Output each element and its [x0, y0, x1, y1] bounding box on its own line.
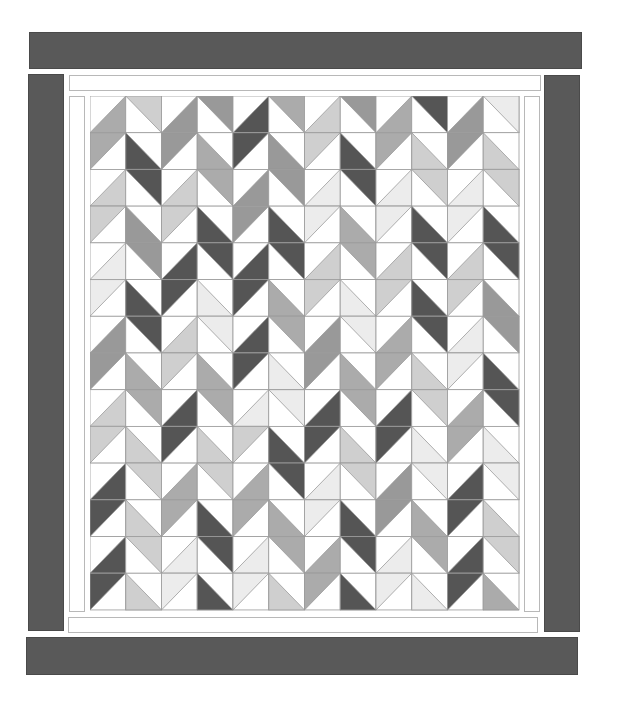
quilt-cell	[197, 133, 233, 170]
quilt-cell	[305, 243, 341, 280]
quilt-cell	[483, 169, 519, 206]
quilt-cell	[412, 500, 448, 537]
quilt-cell	[340, 463, 376, 500]
quilt-cell	[126, 500, 162, 537]
quilt-cell	[233, 133, 269, 170]
quilt-cell	[90, 316, 126, 353]
quilt-cell	[412, 463, 448, 500]
quilt-cell	[233, 243, 269, 280]
quilt-cell	[269, 96, 305, 133]
quilt-cell	[197, 169, 233, 206]
quilt-cell	[483, 426, 519, 463]
quilt-cell	[233, 537, 269, 574]
quilt-cell	[412, 316, 448, 353]
quilt-cell	[269, 390, 305, 427]
quilt-cell	[269, 426, 305, 463]
quilt-cell	[90, 426, 126, 463]
quilt-cell	[305, 169, 341, 206]
quilt-cell	[412, 133, 448, 170]
quilt-cell	[90, 573, 126, 610]
quilt-cell	[376, 206, 412, 243]
quilt-cell	[376, 500, 412, 537]
quilt-cell	[305, 390, 341, 427]
quilt-cell	[483, 206, 519, 243]
quilt-cell	[197, 353, 233, 390]
quilt-cell	[126, 133, 162, 170]
quilt-cell	[412, 206, 448, 243]
quilt-cell	[233, 426, 269, 463]
quilt-cell	[90, 133, 126, 170]
quilt-cell	[483, 133, 519, 170]
quilt-cell	[269, 316, 305, 353]
quilt-cell	[340, 96, 376, 133]
quilt-cell	[412, 573, 448, 610]
quilt-cell	[90, 280, 126, 317]
quilt-cell	[269, 243, 305, 280]
quilt-cell	[483, 243, 519, 280]
quilt-cell	[233, 169, 269, 206]
quilt-cell	[305, 463, 341, 500]
quilt-cell	[340, 426, 376, 463]
quilt-cell	[162, 426, 198, 463]
quilt-cell	[269, 463, 305, 500]
quilt-cell	[305, 426, 341, 463]
quilt-cell	[376, 390, 412, 427]
quilt-cell	[340, 353, 376, 390]
quilt-cell	[269, 169, 305, 206]
quilt-cell	[412, 96, 448, 133]
quilt-cell	[376, 243, 412, 280]
quilt-cell	[448, 169, 484, 206]
quilt-cell	[412, 280, 448, 317]
inner-strip-right	[524, 96, 540, 612]
quilt-cell	[162, 243, 198, 280]
quilt-cell	[305, 133, 341, 170]
quilt-cell	[126, 426, 162, 463]
inner-strip-top	[69, 75, 541, 91]
quilt-cell	[269, 133, 305, 170]
quilt-cell	[448, 280, 484, 317]
quilt-cell	[126, 169, 162, 206]
quilt-cell	[233, 206, 269, 243]
outer-border-right	[544, 75, 580, 632]
quilt-cell	[340, 390, 376, 427]
quilt-cell	[305, 353, 341, 390]
quilt-cell	[162, 169, 198, 206]
inner-strip-left	[69, 96, 85, 612]
quilt-cell	[269, 537, 305, 574]
quilt-cell	[162, 573, 198, 610]
quilt-cell	[448, 353, 484, 390]
quilt-cell	[376, 169, 412, 206]
quilt-cell	[162, 133, 198, 170]
quilt-cell	[197, 500, 233, 537]
quilt-cell	[412, 426, 448, 463]
quilt-cell	[340, 316, 376, 353]
quilt-cell	[233, 390, 269, 427]
quilt-cell	[126, 573, 162, 610]
quilt-cell	[233, 463, 269, 500]
quilt-cell	[269, 206, 305, 243]
quilt-cell	[90, 96, 126, 133]
quilt-cell	[483, 573, 519, 610]
outer-border-bottom	[26, 637, 578, 675]
quilt-cell	[305, 537, 341, 574]
quilt-cell	[162, 316, 198, 353]
quilt-cell	[340, 500, 376, 537]
quilt-cell	[412, 169, 448, 206]
quilt-cell	[233, 500, 269, 537]
quilt-cell	[448, 243, 484, 280]
quilt-cell	[305, 573, 341, 610]
quilt-cell	[126, 537, 162, 574]
herringbone-grid	[90, 96, 520, 611]
quilt-cell	[269, 353, 305, 390]
quilt-cell	[483, 537, 519, 574]
quilt-cell	[197, 280, 233, 317]
quilt-cell	[305, 316, 341, 353]
quilt-cell	[90, 243, 126, 280]
quilt-cell	[376, 353, 412, 390]
quilt-cell	[197, 463, 233, 500]
quilt-cell	[197, 573, 233, 610]
quilt-cell	[340, 206, 376, 243]
quilt-cell	[233, 280, 269, 317]
quilt-cell	[162, 500, 198, 537]
outer-border-left	[28, 74, 64, 631]
